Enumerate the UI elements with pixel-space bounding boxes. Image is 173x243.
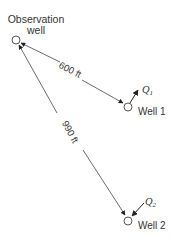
q1-label: Q1 (142, 84, 153, 97)
observation-well-circle-icon (12, 36, 20, 44)
distance-arrow-segment-d (83, 150, 125, 215)
distance-arrow-segment-b (82, 80, 123, 103)
distance-600-label: 600 ft (57, 59, 83, 80)
q2-label: Q2 (145, 196, 157, 209)
well-1: Q1 Well 1 (124, 84, 166, 117)
q2-recharge-arrow-icon (132, 203, 144, 216)
distance-990-label: 990 ft (60, 119, 81, 145)
well1-circle-icon (124, 103, 132, 111)
well-2: Q2 Well 2 (124, 196, 166, 231)
well2-circle-icon (124, 217, 132, 225)
well1-label: Well 1 (138, 106, 166, 117)
distance-arrow-segment-c (19, 45, 57, 113)
q1-discharge-arrow-icon (130, 90, 138, 103)
observation-well-label-line2: well (26, 24, 45, 36)
well-diagram: Observation well 600 ft 990 ft Q1 Well 1… (0, 0, 173, 243)
well2-label: Well 2 (138, 220, 166, 231)
distance-line-well1: 600 ft (21, 43, 123, 103)
observation-well: Observation well (8, 13, 65, 44)
